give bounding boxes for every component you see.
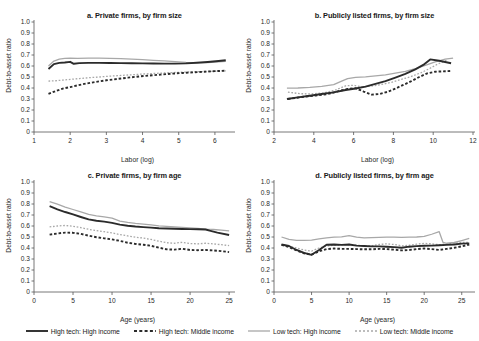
x-tick-label: 25 [458,297,466,304]
x-tick-label: 5 [71,297,75,304]
x-tick-label: 3 [105,137,109,144]
legend-line-swatch [248,328,270,334]
y-tick-label: 0.6 [261,222,270,229]
panel-b-publicly-listed-firms-by-firm-size: b. Publicly listed firms, by firm size D… [240,8,479,164]
y-tick-label: 0.5 [21,73,30,80]
y-tick-label: 0.8 [21,40,30,47]
x-tick-label: 1 [32,137,36,144]
clipped-header-region [0,0,479,7]
y-tick-label: 1.0 [21,178,30,185]
y-tick-label: 0.2 [21,266,30,273]
figure-debt-to-asset-ratio-panels: a. Private firms, by firm size Debt-to-a… [0,0,479,341]
x-tick-label: 10 [108,297,116,304]
panel-a-private-firms-by-firm-size: a. Private firms, by firm size Debt-to-a… [0,8,239,164]
y-tick-label: 0.7 [21,51,30,58]
legend-item[interactable]: Low tech: Middle income [355,328,454,335]
panel-c-x-axis-label: Age (years) [40,316,235,323]
x-tick-label: 5 [177,137,181,144]
y-tick-label: 0.4 [261,84,270,91]
x-tick-label: 4 [141,137,145,144]
x-tick-label: 5 [310,297,314,304]
x-tick-label: 10 [430,137,438,144]
figure-legend: High tech: High incomeHigh tech: Middle … [0,323,479,339]
y-tick-label: 0.3 [21,255,30,262]
x-tick-label: 15 [383,297,391,304]
x-tick-label: 4 [312,137,316,144]
series-line [48,60,225,69]
y-tick-label: 0.2 [21,106,30,113]
x-tick-label: 20 [186,297,194,304]
y-tick-label: 0.9 [21,29,30,36]
legend-item[interactable]: Low tech: High income [248,328,341,335]
x-tick-label: 2 [68,137,72,144]
y-tick-label: 1.0 [261,178,270,185]
y-tick-label: 0.7 [261,51,270,58]
legend-line-swatch [26,328,48,334]
panel-b-plot: 00.10.20.30.40.50.60.70.80.91.024681012 [240,8,479,164]
y-tick-label: 0.7 [21,211,30,218]
y-tick-label: 0.2 [261,266,270,273]
legend-item-label: High tech: High income [51,328,120,335]
y-tick-label: 0.2 [261,106,270,113]
series-line [287,58,453,88]
legend-item-label: High tech: Middle income [159,328,234,335]
y-tick-label: 0.8 [21,200,30,207]
y-tick-label: 0.6 [261,62,270,69]
panel-b-x-axis-label: Labor (log) [280,156,475,163]
y-tick-label: 0.1 [21,277,30,284]
y-tick-label: 0.9 [261,189,270,196]
y-tick-label: 0.9 [21,189,30,196]
series-line [282,232,470,244]
y-tick-label: 0 [266,128,270,135]
y-tick-label: 0.1 [21,117,30,124]
y-tick-label: 0.3 [261,95,270,102]
panel-d-plot: 00.10.20.30.40.50.60.70.80.91.0051015202… [240,168,479,324]
y-tick-label: 0.6 [21,222,30,229]
legend-item[interactable]: High tech: High income [26,328,120,335]
panel-c-private-firms-by-firm-age: c. Private firms, by firm age Debt-to-as… [0,168,239,324]
legend-item-label: Low tech: High income [273,328,341,335]
y-tick-label: 0.9 [261,29,270,36]
y-tick-label: 0.5 [21,233,30,240]
y-tick-label: 0.3 [21,95,30,102]
y-tick-label: 0.4 [21,84,30,91]
y-tick-label: 0.7 [261,211,270,218]
panel-a-x-axis-label: Labor (log) [40,156,235,163]
panel-d-publicly-listed-firms-by-firm-age: d. Publicly listed firms, by firm age De… [240,168,479,324]
x-tick-label: 0 [272,297,276,304]
y-tick-label: 1.0 [21,18,30,25]
series-line [50,233,229,252]
y-tick-label: 0.6 [21,62,30,69]
y-tick-label: 0.5 [261,73,270,80]
x-tick-label: 6 [213,137,217,144]
x-tick-label: 12 [469,137,477,144]
x-tick-label: 20 [421,297,429,304]
panel-a-plot: 00.10.20.30.40.50.60.70.80.91.0123456 [0,8,239,164]
x-tick-label: 6 [352,137,356,144]
x-tick-label: 25 [225,297,233,304]
y-tick-label: 0.1 [261,117,270,124]
panel-d-x-axis-label: Age (years) [280,316,475,323]
y-tick-label: 1.0 [261,18,270,25]
y-tick-label: 0.8 [261,40,270,47]
legend-item-label: Low tech: Middle income [380,328,454,335]
y-tick-label: 0.5 [261,233,270,240]
x-tick-label: 10 [345,297,353,304]
y-tick-label: 0.4 [261,244,270,251]
y-tick-label: 0.3 [261,255,270,262]
y-tick-label: 0.8 [261,200,270,207]
y-tick-label: 0 [26,288,30,295]
x-tick-label: 8 [392,137,396,144]
x-tick-label: 15 [147,297,155,304]
legend-item[interactable]: High tech: Middle income [134,328,234,335]
legend-line-swatch [134,328,156,334]
y-tick-label: 0.4 [21,244,30,251]
y-tick-label: 0 [26,128,30,135]
x-tick-label: 2 [272,137,276,144]
x-tick-label: 0 [32,297,36,304]
y-tick-label: 0 [266,288,270,295]
y-tick-label: 0.1 [261,277,270,284]
legend-line-swatch [355,328,377,334]
panel-c-plot: 00.10.20.30.40.50.60.70.80.91.0051015202… [0,168,239,324]
